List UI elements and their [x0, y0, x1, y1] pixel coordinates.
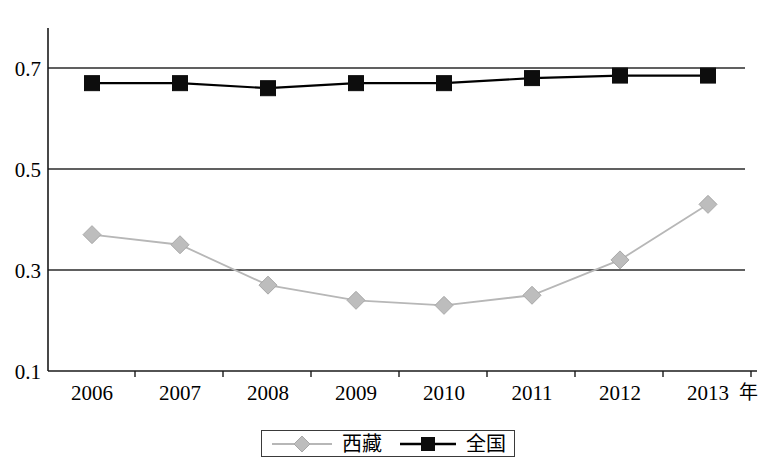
x-axis-labels: 2006 2007 2008 2009 2010 2011 2012 2013 … [71, 381, 758, 405]
y-tick-label-0: 0.7 [15, 57, 41, 81]
legend-label-tibet: 西藏 [338, 434, 382, 454]
data-point-national [261, 81, 276, 96]
data-point-tibet [259, 276, 277, 294]
data-point-national [525, 71, 540, 86]
series-markers-national [85, 68, 716, 96]
data-point-tibet [83, 226, 101, 244]
data-point-national [437, 76, 452, 91]
x-axis-unit-label: 年 [739, 382, 758, 403]
data-point-national [173, 76, 188, 91]
data-point-tibet [435, 296, 453, 314]
diamond-marker-icon [270, 434, 334, 454]
x-tick-label-2012: 2012 [599, 381, 641, 405]
y-tick-label-2: 0.3 [15, 259, 41, 283]
x-tick-label-2007: 2007 [159, 381, 201, 405]
data-point-national [349, 76, 364, 91]
y-axis-labels: 0.7 0.5 0.3 0.1 [15, 57, 41, 384]
legend-item-tibet: 西藏 [270, 434, 382, 454]
x-tick-label-2006: 2006 [71, 381, 113, 405]
data-point-national [85, 76, 100, 91]
chart-plot-area: 0.7 0.5 0.3 0.1 2006 2007 2008 2009 2010… [0, 0, 774, 457]
y-tick-label-3: 0.1 [15, 360, 41, 384]
data-point-tibet [171, 236, 189, 254]
series-group [83, 68, 717, 314]
x-axis-ticks [135, 371, 751, 377]
x-tick-label-2010: 2010 [423, 381, 465, 405]
legend-item-national: 全国 [398, 434, 506, 454]
axes [48, 28, 757, 371]
x-tick-label-2013: 2013 [687, 381, 729, 405]
data-point-national [613, 68, 628, 83]
series-markers-tibet [83, 195, 717, 314]
data-point-tibet [611, 251, 629, 269]
data-point-national [701, 68, 716, 83]
y-tick-label-1: 0.5 [15, 158, 41, 182]
x-tick-label-2011: 2011 [511, 381, 552, 405]
legend-label-national: 全国 [462, 434, 506, 454]
gridlines [48, 68, 745, 270]
data-point-tibet [347, 291, 365, 309]
square-marker-icon [398, 434, 458, 454]
line-chart: 0.7 0.5 0.3 0.1 2006 2007 2008 2009 2010… [0, 0, 774, 457]
x-tick-label-2009: 2009 [335, 381, 377, 405]
chart-legend: 西藏 全国 [261, 430, 515, 457]
x-tick-label-2008: 2008 [247, 381, 289, 405]
data-point-tibet [523, 286, 541, 304]
data-point-tibet [699, 195, 717, 213]
